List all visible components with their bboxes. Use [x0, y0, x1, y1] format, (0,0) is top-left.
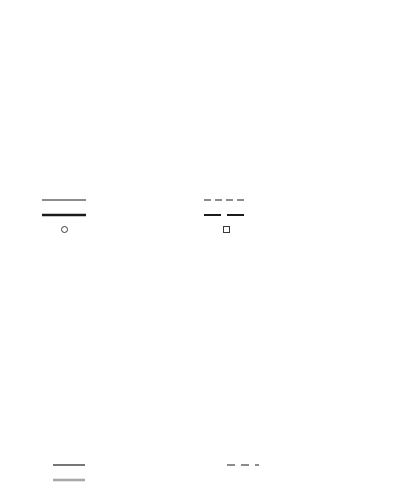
- line-thick-solid-icon: [38, 208, 90, 222]
- legend-item-pres-vote-share: [0, 193, 200, 207]
- figure-az-republican-percent: [0, 0, 397, 501]
- line-dashed-icon: [222, 458, 264, 472]
- top-chart-svg: [0, 4, 397, 166]
- line-thin-solid-icon: [38, 193, 90, 207]
- marker-circle-icon: [38, 223, 90, 237]
- top-chart-panel: [0, 4, 397, 166]
- bottom-chart-svg: [0, 252, 397, 424]
- bottom-chart-panel: [0, 252, 397, 424]
- legend-item-upper-house-seat-share: [200, 208, 397, 222]
- legend-item-party-registration: [200, 193, 397, 207]
- legend-row: [0, 222, 397, 237]
- line-thin-solid-icon: [48, 458, 90, 472]
- line-dashed-icon: [200, 193, 252, 207]
- legend-item-party-registration-bottom: [222, 458, 397, 472]
- line-gray-thick-icon: [48, 473, 90, 487]
- legend-row: [0, 457, 397, 472]
- legend-row: [0, 207, 397, 222]
- legend-item-senate-vote: [0, 223, 200, 237]
- legend-item-quadratic-fit: [0, 473, 397, 487]
- legend-item-lower-house-seat-share: [0, 208, 200, 222]
- legend-row: [0, 192, 397, 207]
- marker-square-icon: [200, 223, 252, 237]
- line-long-dash-icon: [200, 208, 252, 222]
- bottom-chart-legend: [0, 457, 397, 487]
- legend-row: [0, 472, 397, 487]
- legend-item-pres-vote-share-bottom: [0, 458, 222, 472]
- legend-item-governor-vote: [200, 223, 397, 237]
- figure-caption-partial: [4, 493, 397, 501]
- top-chart-legend: [0, 192, 397, 237]
